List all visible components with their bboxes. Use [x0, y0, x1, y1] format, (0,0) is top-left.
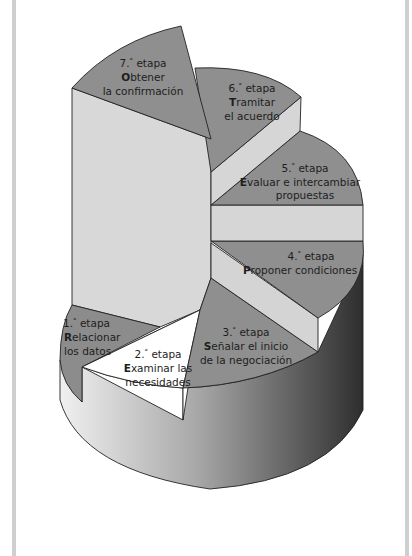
svg-text:Proponer condiciones: Proponer condiciones: [243, 264, 357, 276]
svg-text:Tramitar: Tramitar: [229, 96, 276, 108]
svg-text:Obtener: Obtener: [121, 71, 165, 83]
slab-4-5: [211, 205, 363, 241]
svg-text:los datos: los datos: [64, 345, 111, 357]
svg-text:propuestas: propuestas: [276, 189, 334, 201]
svg-text:1.° etapa: 1.° etapa: [63, 317, 110, 329]
svg-text:el acuerdo: el acuerdo: [224, 110, 279, 122]
svg-text:necesidades: necesidades: [125, 376, 190, 388]
svg-text:de la negociación: de la negociación: [200, 354, 292, 366]
svg-text:3.° etapa: 3.° etapa: [223, 326, 270, 338]
svg-text:Relacionar: Relacionar: [64, 331, 121, 343]
svg-text:la confirmación: la confirmación: [103, 85, 184, 97]
svg-text:7.° etapa: 7.° etapa: [120, 57, 167, 69]
svg-text:Señalar el inicio: Señalar el inicio: [204, 340, 288, 352]
svg-text:Evaluar e intercambiar: Evaluar e intercambiar: [240, 176, 361, 188]
svg-text:Examinar las: Examinar las: [124, 362, 193, 374]
svg-text:4.° etapa: 4.° etapa: [288, 250, 335, 262]
svg-text:6.° etapa: 6.° etapa: [229, 82, 276, 94]
svg-text:2.° etapa: 2.° etapa: [135, 348, 182, 360]
svg-text:5.° etapa: 5.° etapa: [282, 162, 329, 174]
stage-6-label: 6.° etapa Tramitar el acuerdo: [224, 82, 279, 122]
staircase-pie-diagram: 7.° etapa Obtener la confirmación 6.° et…: [0, 0, 412, 556]
